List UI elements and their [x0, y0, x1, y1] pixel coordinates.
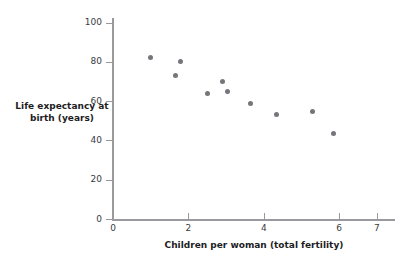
scatter-chart: 020406080100 02467 Life expectancy at bi… — [0, 0, 416, 266]
data-point — [178, 59, 183, 64]
data-point — [225, 89, 230, 94]
data-point — [205, 91, 210, 96]
plot-area — [0, 0, 416, 266]
data-point — [220, 79, 225, 84]
y-axis-title: Life expectancy at birth (years) — [12, 100, 112, 124]
x-axis-title: Children per woman (total fertility) — [113, 240, 395, 251]
data-point — [173, 73, 178, 78]
data-point — [331, 131, 336, 136]
data-point — [248, 101, 253, 106]
data-point — [310, 109, 315, 114]
data-point — [274, 112, 279, 117]
data-point — [148, 55, 153, 60]
